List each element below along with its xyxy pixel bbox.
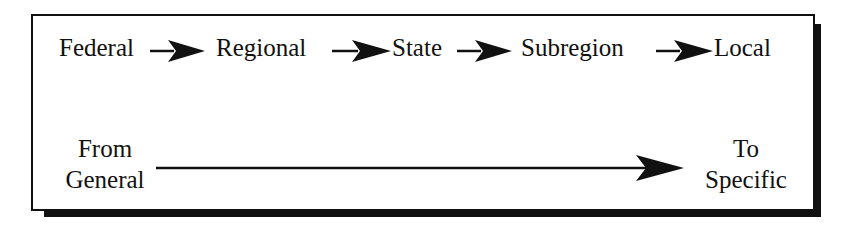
arrow-icon [332, 38, 392, 64]
level-state: State [392, 34, 442, 62]
scale-start-label: From General [55, 133, 155, 195]
level-federal: Federal [59, 34, 134, 62]
arrow-icon [150, 38, 206, 64]
scale-end-line1: To [690, 133, 802, 164]
level-subregion: Subregion [521, 34, 624, 62]
scale-start-line2: General [55, 164, 155, 195]
general-to-specific-arrow-icon [156, 151, 686, 185]
arrow-icon [656, 38, 714, 64]
scale-end-line2: Specific [690, 164, 802, 195]
scale-start-line1: From [55, 133, 155, 164]
arrow-icon [457, 38, 513, 64]
level-local: Local [714, 34, 771, 62]
level-regional: Regional [216, 34, 306, 62]
scale-end-label: To Specific [690, 133, 802, 195]
